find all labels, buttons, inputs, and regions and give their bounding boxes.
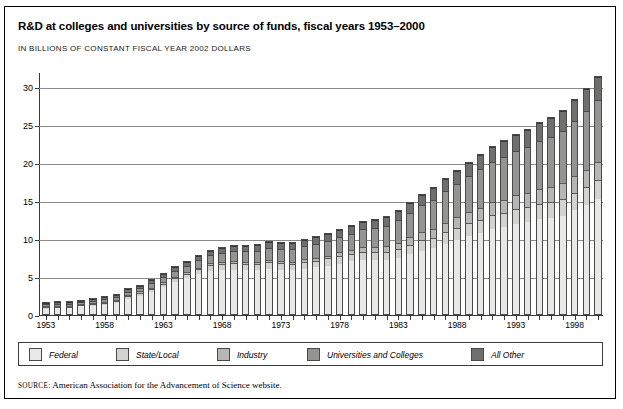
bar-segment (501, 157, 506, 200)
bar-segment (454, 228, 459, 240)
bar-1996[interactable] (547, 117, 554, 315)
x-axis-label: 1953 (36, 320, 55, 330)
bar-1994[interactable] (524, 129, 531, 315)
bar-segment (337, 230, 342, 237)
bar-1961[interactable] (136, 285, 143, 315)
bar-1965[interactable] (183, 261, 190, 315)
bar-1956[interactable] (77, 300, 84, 315)
bar-1964[interactable] (171, 266, 178, 315)
bar-1998[interactable] (571, 99, 578, 315)
bar-segment (466, 176, 471, 212)
bar-1969[interactable] (230, 245, 237, 315)
bar-segment (595, 180, 600, 199)
bar-1966[interactable] (195, 255, 202, 315)
legend-label: All Other (491, 350, 524, 360)
x-axis-label: 1973 (271, 320, 290, 330)
bar-1970[interactable] (242, 245, 249, 315)
x-axis-label: 1963 (154, 320, 173, 330)
bar-1997[interactable] (559, 110, 566, 315)
bar-1976[interactable] (312, 236, 319, 315)
bar-1972[interactable] (265, 241, 272, 315)
bar-segment (372, 260, 377, 314)
bar-1993[interactable] (512, 134, 519, 315)
bar-1999[interactable] (583, 88, 590, 315)
bar-1967[interactable] (207, 250, 214, 315)
bar-1963[interactable] (160, 273, 167, 315)
bar-1953[interactable] (42, 302, 49, 315)
bar-1955[interactable] (66, 301, 73, 315)
legend-item-state-local[interactable]: State/Local (116, 347, 179, 362)
bar-segment (396, 220, 401, 242)
bar-1986[interactable] (430, 187, 437, 315)
bar-1954[interactable] (54, 301, 61, 315)
bar-1971[interactable] (254, 244, 261, 315)
bar-segment (219, 253, 224, 262)
bar-segment (513, 151, 518, 195)
legend-swatch (307, 348, 320, 361)
x-axis-label: 1983 (389, 320, 408, 330)
legend-swatch (116, 348, 129, 361)
y-axis-labels: 051015202530 (11, 73, 33, 316)
bar-1973[interactable] (277, 242, 284, 315)
bar-1995[interactable] (536, 122, 543, 315)
bar-1980[interactable] (359, 221, 366, 315)
y-tick-label: 20 (11, 159, 33, 169)
bar-1975[interactable] (301, 239, 308, 315)
bar-1985[interactable] (418, 194, 425, 316)
bar-1983[interactable] (395, 210, 402, 315)
y-tick-label: 30 (11, 83, 33, 93)
x-axis-label: 1998 (565, 320, 584, 330)
bar-segment (513, 224, 518, 314)
bar-segment (137, 296, 142, 314)
bar-1981[interactable] (371, 219, 378, 315)
bar-segment (360, 229, 365, 247)
bar-1957[interactable] (89, 298, 96, 315)
bar-1958[interactable] (101, 296, 108, 315)
bar-segment (443, 232, 448, 243)
bar-segment (419, 240, 424, 250)
bar-segment (278, 249, 283, 261)
legend-item-universities-and-colleges[interactable]: Universities and Colleges (307, 347, 423, 362)
bar-1962[interactable] (148, 279, 155, 315)
bar-1991[interactable] (489, 146, 496, 315)
bar-1992[interactable] (500, 140, 507, 315)
bar-segment (560, 216, 565, 315)
bar-segment (466, 223, 471, 236)
bar-segment (266, 269, 271, 314)
bar-segment (407, 254, 412, 314)
bar-segment (208, 271, 213, 314)
legend-swatch (471, 348, 484, 361)
bar-1982[interactable] (383, 216, 390, 315)
legend-item-industry[interactable]: Industry (217, 347, 267, 362)
bar-1987[interactable] (442, 178, 449, 315)
x-axis-label: 1993 (506, 320, 525, 330)
bar-segment (184, 278, 189, 314)
bar-segment (325, 241, 330, 256)
bar-segment (313, 267, 318, 314)
bar-1960[interactable] (124, 288, 131, 315)
legend-swatch (29, 348, 42, 361)
bar-1974[interactable] (289, 242, 296, 315)
bar-1989[interactable] (465, 162, 472, 315)
bar-1977[interactable] (324, 233, 331, 315)
bar-segment (595, 100, 600, 162)
bar-segment (525, 130, 530, 147)
bar-1988[interactable] (453, 170, 460, 315)
legend-item-all-other[interactable]: All Other (471, 347, 524, 362)
bar-1959[interactable] (113, 294, 120, 315)
bar-1990[interactable] (477, 154, 484, 315)
bar-segment (278, 270, 283, 314)
bar-segment (290, 249, 295, 262)
bar-segment (572, 121, 577, 177)
bar-1968[interactable] (218, 247, 225, 315)
bar-1979[interactable] (348, 225, 355, 315)
bar-1984[interactable] (406, 202, 413, 315)
bar-segment (384, 260, 389, 314)
bar-segment (454, 217, 459, 227)
bar-segment (584, 111, 589, 170)
bar-segment (584, 187, 589, 205)
legend-item-federal[interactable]: Federal (29, 347, 78, 362)
bar-1978[interactable] (336, 229, 343, 315)
bar-segment (513, 209, 518, 224)
bar-2000[interactable] (594, 76, 601, 315)
